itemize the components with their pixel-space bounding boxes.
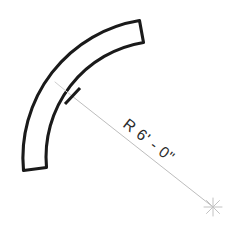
arc-center-crosshair: [204, 198, 222, 216]
drawing-canvas: R 6' - 0": [0, 0, 243, 238]
curved-wall-band: [23, 21, 144, 171]
radius-leader-line: [72, 96, 213, 207]
technical-drawing: R 6' - 0": [0, 0, 243, 238]
